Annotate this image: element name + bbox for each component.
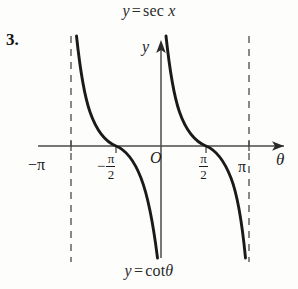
- tick-label-minus-pi-over-2: − π 2: [97, 152, 115, 182]
- fraction-numerator: π: [107, 152, 116, 165]
- fraction-denominator: 2: [108, 168, 115, 181]
- cotangent-graph-figure: 3. y=sec x y=cotθ y θ O −π −: [0, 0, 298, 289]
- tick-label-pi-over-2: π 2: [199, 152, 208, 182]
- tick-label-minus-sign: −: [97, 159, 105, 174]
- fraction-minus-pi-over-2: π 2: [106, 152, 115, 182]
- y-axis-label: y: [142, 38, 149, 56]
- tick-label-minus-pi: −π: [28, 156, 45, 174]
- x-axis-label: θ: [276, 150, 284, 170]
- tick-label-pi: π: [238, 158, 246, 176]
- fraction-denominator: 2: [200, 168, 207, 181]
- fraction-numerator: π: [199, 152, 208, 165]
- origin-label: O: [150, 149, 162, 167]
- curve-cot-branch-right: [166, 36, 246, 258]
- fraction-pi-over-2: π 2: [199, 152, 208, 182]
- curve-cot-branch-left: [77, 36, 158, 258]
